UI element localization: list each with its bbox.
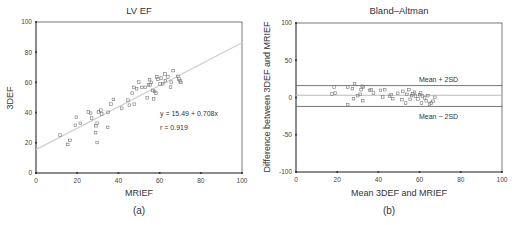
- data-point: [131, 92, 134, 95]
- y-tick-mark: [35, 142, 37, 144]
- data-point: [383, 88, 386, 91]
- data-point: [352, 97, 355, 100]
- data-point: [90, 117, 93, 120]
- data-point: [408, 88, 411, 91]
- data-point: [120, 107, 123, 110]
- x-tick-label: 100: [237, 177, 248, 184]
- y-tick-label: 40: [25, 109, 33, 116]
- y-tick-label: -50: [283, 131, 293, 138]
- lower-limit-label: Mean − 2SD: [419, 113, 458, 120]
- y-tick-mark: [35, 172, 37, 174]
- data-point: [79, 122, 82, 125]
- data-point: [148, 78, 151, 81]
- panel-caption: (b): [383, 205, 395, 216]
- plot-area: 020406080100-100-50050100: [279, 19, 508, 183]
- y-tick-label: 0: [28, 169, 32, 176]
- x-tick-mark: [159, 172, 161, 174]
- data-point: [133, 103, 136, 106]
- plot-area: 020406080100020406080100: [21, 18, 248, 184]
- x-tick-label: 0: [294, 176, 298, 183]
- x-tick-label: 40: [375, 176, 383, 183]
- chart-title: Bland–Altman: [369, 5, 428, 16]
- y-tick-label: -100: [279, 168, 292, 175]
- data-point: [392, 97, 395, 100]
- data-point: [381, 96, 384, 99]
- x-tick-label: 40: [115, 177, 123, 184]
- data-point: [169, 86, 172, 89]
- data-point: [135, 87, 138, 90]
- plot-frame: [296, 23, 502, 172]
- x-tick-label: 0: [34, 177, 38, 184]
- y-tick-mark: [295, 171, 297, 173]
- data-point: [372, 92, 375, 95]
- y-axis-label: Difference between 3DEF and MRIEF: [262, 21, 272, 172]
- correlation-coefficient: r = 0.919: [160, 124, 188, 131]
- y-tick-mark: [295, 22, 297, 24]
- y-tick-label: 100: [281, 19, 292, 26]
- data-point: [74, 124, 77, 127]
- panel-caption: (a): [133, 205, 145, 216]
- data-point: [106, 126, 109, 129]
- data-point: [404, 102, 407, 105]
- data-point: [94, 131, 97, 134]
- y-tick-mark: [35, 112, 37, 114]
- data-point: [379, 89, 382, 92]
- data-point: [425, 99, 428, 102]
- figure: LV EF 020406080100020406080100 MRIEF 3DE…: [0, 0, 512, 225]
- data-point: [112, 98, 115, 101]
- x-tick-label: 80: [457, 176, 465, 183]
- data-point: [164, 73, 167, 76]
- x-tick-mark: [118, 172, 120, 174]
- data-point: [434, 96, 437, 99]
- x-tick-mark: [419, 171, 421, 173]
- data-point: [128, 104, 131, 107]
- y-tick-mark: [35, 51, 37, 53]
- x-tick-mark: [200, 172, 202, 174]
- chart-lv-ef: LV EF 020406080100020406080100 MRIEF 3DE…: [5, 5, 248, 216]
- y-tick-label: 50: [285, 57, 293, 64]
- x-tick-label: 20: [334, 176, 342, 183]
- plot-frame: [36, 22, 242, 173]
- data-point: [333, 86, 336, 89]
- x-tick-mark: [241, 172, 243, 174]
- upper-limit-label: Mean + 2SD: [419, 76, 458, 83]
- data-point: [167, 76, 170, 79]
- x-axis-label: Mean 3DEF and MRIEF: [351, 188, 448, 198]
- data-point: [430, 102, 433, 105]
- data-point: [96, 141, 99, 144]
- x-axis-label: MRIEF: [125, 188, 154, 198]
- x-tick-label: 80: [197, 177, 205, 184]
- x-tick-label: 20: [74, 177, 82, 184]
- data-point: [75, 116, 78, 119]
- y-tick-label: 80: [25, 49, 33, 56]
- data-point: [180, 81, 183, 84]
- data-point: [346, 86, 349, 89]
- data-point: [152, 98, 155, 101]
- data-point: [396, 92, 399, 95]
- data-point: [137, 81, 140, 84]
- data-point: [147, 84, 150, 87]
- data-point: [361, 99, 364, 102]
- data-point: [353, 82, 356, 85]
- data-point: [351, 87, 354, 90]
- data-point: [66, 143, 69, 146]
- data-point: [110, 103, 113, 106]
- data-point: [401, 98, 404, 101]
- chart-title: LV EF: [126, 5, 152, 16]
- x-tick-mark: [501, 171, 503, 173]
- data-point: [144, 86, 147, 89]
- regression-line: [36, 43, 242, 150]
- x-tick-mark: [76, 172, 78, 174]
- data-point: [334, 92, 337, 95]
- data-point: [417, 98, 420, 101]
- data-point: [160, 77, 163, 80]
- y-tick-label: 0: [288, 94, 292, 101]
- data-point: [360, 88, 363, 91]
- data-point: [428, 103, 431, 106]
- data-point: [420, 102, 423, 105]
- y-tick-label: 100: [21, 18, 32, 25]
- data-point: [133, 86, 136, 89]
- data-point: [146, 97, 149, 100]
- x-tick-label: 100: [497, 176, 508, 183]
- x-tick-mark: [336, 171, 338, 173]
